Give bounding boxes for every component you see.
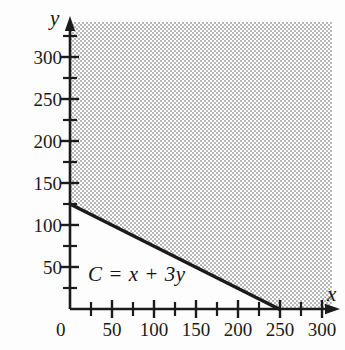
x-axis-label: x <box>327 284 336 305</box>
x-tick-label-300: 300 <box>308 320 337 339</box>
objective-function-label: C = x + 3y <box>88 264 186 285</box>
y-tick-label-150: 150 <box>34 174 63 193</box>
x-tick-label-50: 50 <box>103 320 122 339</box>
origin-label: 0 <box>56 320 66 339</box>
y-tick-label-100: 100 <box>34 216 63 235</box>
y-axis-label: y <box>50 8 59 29</box>
x-tick-label-100: 100 <box>140 320 169 339</box>
y-tick-label-300: 300 <box>34 48 63 67</box>
y-axis-arrowhead <box>65 16 75 31</box>
x-tick-label-150: 150 <box>182 320 211 339</box>
y-tick-label-200: 200 <box>34 132 63 151</box>
x-tick-label-200: 200 <box>224 320 253 339</box>
y-tick-label-250: 250 <box>34 90 63 109</box>
x-tick-label-250: 250 <box>266 320 295 339</box>
y-tick-label-50: 50 <box>43 258 62 277</box>
objective-line <box>70 204 279 309</box>
linear-programming-figure: 50 100 150 200 250 300 50 100 150 200 25… <box>0 0 345 350</box>
